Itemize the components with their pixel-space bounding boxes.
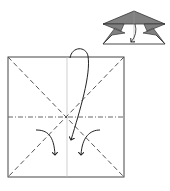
- origami-diagram: [0, 0, 170, 191]
- preview-left-edge: [103, 35, 112, 44]
- main-square-diagram: [8, 49, 124, 177]
- preview-right-edge: [156, 35, 165, 44]
- result-preview: [103, 11, 165, 44]
- preview-fold-arrow: [131, 24, 136, 42]
